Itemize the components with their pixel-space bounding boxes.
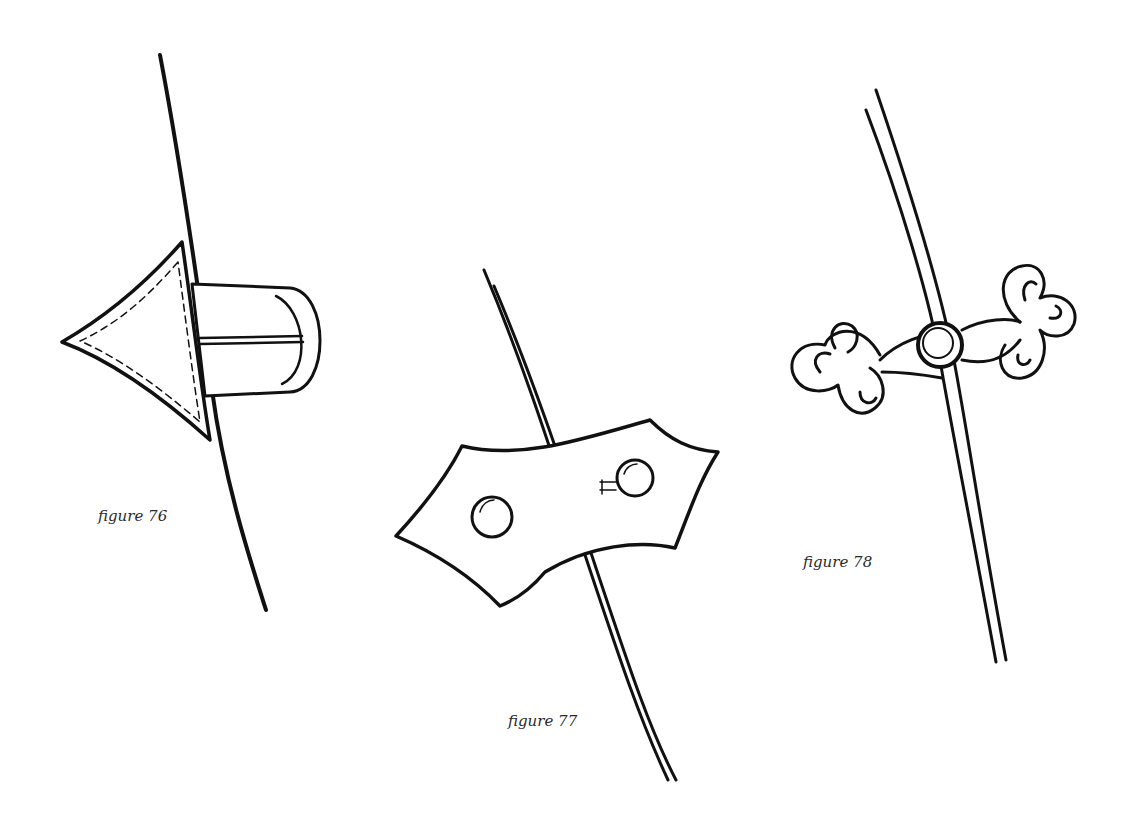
figure-78-drawing: [792, 90, 1075, 662]
figure-77-caption: figure 77: [508, 712, 577, 730]
figure-76-caption: figure 76: [98, 507, 167, 525]
figure-77-drawing: [396, 270, 718, 780]
figure-78-caption: figure 78: [803, 553, 872, 571]
illustration-page: figure 76 figure 77 figure 78: [0, 0, 1138, 833]
figure-76-drawing: [62, 55, 320, 610]
illustration-artwork: [0, 0, 1138, 833]
